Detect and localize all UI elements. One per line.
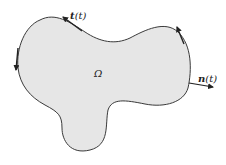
domain-diagram: t(t) n(t) Ω <box>0 0 226 165</box>
tangent-label: t(t) <box>70 10 87 21</box>
tangent-label-arg: (t) <box>75 10 87 21</box>
region-omega-shape <box>18 17 191 151</box>
region-omega-label: Ω <box>93 68 102 79</box>
normal-label-arg: (t) <box>205 73 217 84</box>
normal-label-symbol: n <box>198 73 205 84</box>
normal-label: n(t) <box>198 73 217 84</box>
